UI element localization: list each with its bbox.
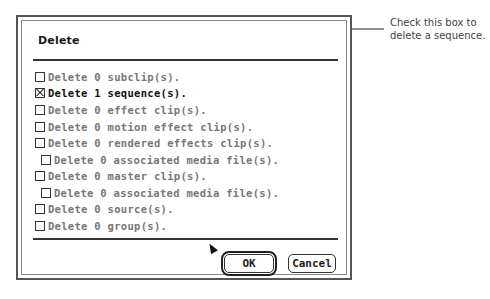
checkbox-icon[interactable] <box>41 188 51 198</box>
option-rendered-effects-clips[interactable]: Delete 0 rendered effects clip(s). <box>35 136 273 150</box>
callout-line-1: Check this box to <box>390 16 485 29</box>
checkbox-icon[interactable] <box>35 122 45 132</box>
dialog-title: Delete <box>38 34 80 47</box>
checkbox-icon[interactable] <box>35 171 45 181</box>
option-label: Delete 0 source(s). <box>48 203 174 215</box>
option-label: Delete 0 associated media file(s). <box>54 187 279 199</box>
option-subclips[interactable]: Delete 0 subclip(s). <box>35 70 180 84</box>
checkbox-icon[interactable] <box>35 105 45 115</box>
option-label: Delete 0 group(s). <box>48 220 167 232</box>
checkbox-checked-icon[interactable] <box>35 88 45 98</box>
checkbox-icon[interactable] <box>35 204 45 214</box>
option-label: Delete 0 effect clip(s). <box>48 104 207 116</box>
callout-annotation: Check this box to delete a sequence. <box>390 16 485 42</box>
option-master-associated-media[interactable]: Delete 0 associated media file(s). <box>41 186 279 200</box>
option-label: Delete 0 rendered effects clip(s). <box>48 137 273 149</box>
option-label: Delete 0 master clip(s). <box>48 170 207 182</box>
option-motion-effect-clips[interactable]: Delete 0 motion effect clip(s). <box>35 120 253 134</box>
cancel-button[interactable]: Cancel <box>288 254 336 273</box>
option-sequences[interactable]: Delete 1 sequence(s). <box>35 86 187 100</box>
option-label: Delete 1 sequence(s). <box>48 87 187 99</box>
checkbox-icon[interactable] <box>35 138 45 148</box>
callout-line-2: delete a sequence. <box>390 29 485 42</box>
divider-bottom <box>33 238 338 240</box>
option-rendered-associated-media[interactable]: Delete 0 associated media file(s). <box>41 153 279 167</box>
option-label: Delete 0 subclip(s). <box>48 71 180 83</box>
divider-top <box>33 59 338 61</box>
option-groups[interactable]: Delete 0 group(s). <box>35 219 167 233</box>
option-sources[interactable]: Delete 0 source(s). <box>35 202 174 216</box>
checkbox-icon[interactable] <box>35 221 45 231</box>
option-master-clips[interactable]: Delete 0 master clip(s). <box>35 169 207 183</box>
option-label: Delete 0 motion effect clip(s). <box>48 121 253 133</box>
option-effect-clips[interactable]: Delete 0 effect clip(s). <box>35 103 207 117</box>
option-label: Delete 0 associated media file(s). <box>54 154 279 166</box>
delete-dialog: Delete Delete 0 subclip(s). Delete 1 seq… <box>16 15 352 280</box>
checkbox-icon[interactable] <box>35 72 45 82</box>
ok-button[interactable]: OK <box>224 254 274 273</box>
checkbox-icon[interactable] <box>41 155 51 165</box>
